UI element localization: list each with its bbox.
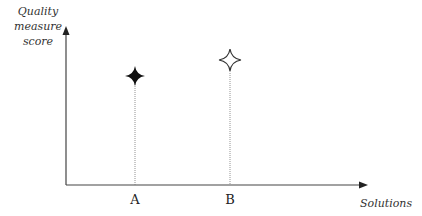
y-axis-label-line: measure <box>2 19 74 34</box>
star-b-icon <box>219 49 241 71</box>
y-axis-label-line: score <box>2 34 74 49</box>
diagram: Quality measure score A B Solutions <box>0 0 422 216</box>
category-label-b: B <box>225 192 235 207</box>
x-axis-label: Solutions <box>360 197 412 210</box>
category-label-a: A <box>130 192 139 207</box>
star-a-icon <box>125 66 145 86</box>
x-axis-arrow-icon <box>359 182 368 189</box>
y-axis-label: Quality measure score <box>2 4 74 49</box>
y-axis-label-line: Quality <box>2 4 74 19</box>
